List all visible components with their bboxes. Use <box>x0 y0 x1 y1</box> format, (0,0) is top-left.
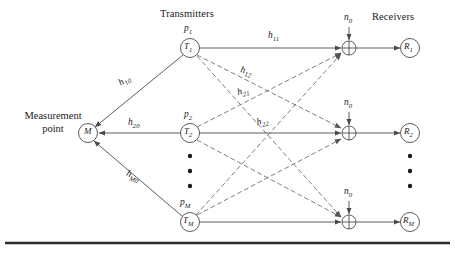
receivers-heading: Receivers <box>372 11 414 22</box>
interference-paths <box>196 53 341 217</box>
transmitter-ellipsis-dot-3 <box>188 184 192 188</box>
summer-to-receiver-links <box>356 48 400 222</box>
node-label-r1: R1 <box>404 42 413 54</box>
channel-label-h12: h12 <box>239 65 253 78</box>
node-label-tm: TM <box>183 216 193 228</box>
direct-paths-to-summers <box>199 48 341 222</box>
edge-tm-to-sum1 <box>196 54 341 215</box>
edge-t1-to-m <box>95 55 183 127</box>
transmitter-ellipsis-dot-1 <box>188 154 192 158</box>
summing-junctions <box>342 41 356 229</box>
edge-t1-to-summ <box>197 56 341 217</box>
noise-label-1: n0 <box>344 13 352 24</box>
channel-model-diagram: Transmitters Receivers Measurement point… <box>0 0 455 256</box>
node-label-r2: R2 <box>404 127 413 139</box>
noise-label-2: n0 <box>344 98 352 109</box>
channel-label-h20: h20 <box>128 118 140 129</box>
power-label-p1: p1 <box>184 24 192 35</box>
receiver-ellipsis-dot-2 <box>408 169 412 173</box>
node-label-rm: RM <box>403 216 414 228</box>
transmitters-heading: Transmitters <box>160 8 214 19</box>
noise-label-3: n0 <box>344 187 352 198</box>
channel-label-h11: h11 <box>268 31 279 42</box>
channel-label-h22: h22 <box>256 116 270 129</box>
power-label-p2: p2 <box>184 110 192 121</box>
edge-t1-to-sum2 <box>197 55 341 128</box>
direct-paths-to-measurement-point <box>94 55 183 216</box>
transmitter-ellipsis-dot-2 <box>188 169 192 173</box>
receiver-ellipsis-dot-1 <box>408 154 412 158</box>
node-label-t1: T1 <box>184 42 192 54</box>
measurement-point-label-line1: Measurement <box>14 110 92 121</box>
edge-t2-to-summ <box>197 140 341 217</box>
measurement-point-label-line2: point <box>14 123 92 134</box>
power-label-pm: pM <box>180 198 190 209</box>
edge-t2-to-sum1 <box>197 53 341 127</box>
edge-tm-to-sum2 <box>197 139 341 215</box>
node-label-measurement: M <box>84 127 92 136</box>
receiver-ellipsis-dot-3 <box>408 184 412 188</box>
node-label-t2: T2 <box>184 127 192 139</box>
